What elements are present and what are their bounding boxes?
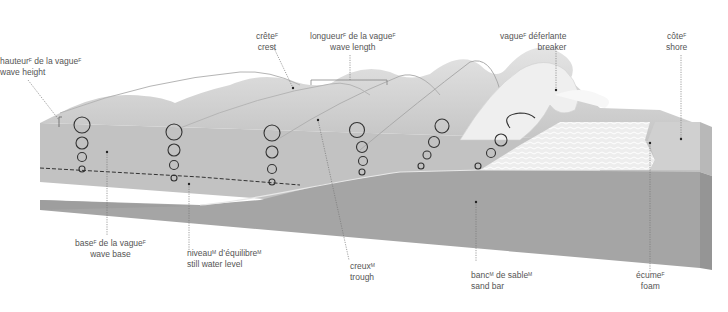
label-still-water-level: niveauM d’équilibreM still water level: [187, 248, 262, 270]
label-shore: côteF shore: [666, 31, 687, 53]
label-sand-bar: bancM de sableM sand bar: [471, 270, 532, 292]
label-breaker: vagueF déferlante breaker: [500, 31, 566, 53]
label-wave-base: baseF de la vagueF wave base: [75, 238, 146, 260]
label-wave-length: longueurF de la vagueF wave length: [310, 31, 396, 53]
label-foam: écumeF foam: [636, 270, 665, 292]
label-crest: crêteF crest: [256, 31, 278, 53]
label-trough: creuxM trough: [350, 261, 375, 283]
label-wave-height: hauteurF de la vagueF wave height: [0, 56, 81, 78]
